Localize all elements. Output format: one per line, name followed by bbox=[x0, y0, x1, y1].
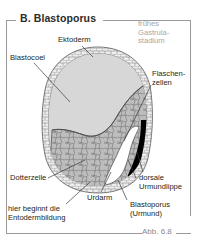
label-entodermbildung: hier beginnt die Entodermbildung bbox=[8, 205, 65, 222]
label-dorsale-urmundlippe: dorsale Urmundlippe bbox=[139, 174, 182, 191]
figure-panel: B. Blastoporus bbox=[0, 0, 197, 243]
label-dotterzelle: Dotterzelle bbox=[10, 174, 46, 183]
label-blastoporus-urmund: Blastoporus (Urmund) bbox=[130, 201, 170, 218]
label-ektoderm: Ektoderm bbox=[58, 36, 91, 45]
figure-caption: Abb. 6.8 bbox=[142, 227, 172, 236]
label-flaschenzellen: Flaschen- zellen bbox=[152, 70, 185, 87]
label-blastocoel: Blastocoel bbox=[10, 54, 45, 63]
caption-rule-right bbox=[176, 233, 183, 234]
label-urdarm: Urdarm bbox=[87, 194, 112, 203]
label-gastrula-stage: frühes Gastrula- stadium bbox=[138, 20, 169, 46]
